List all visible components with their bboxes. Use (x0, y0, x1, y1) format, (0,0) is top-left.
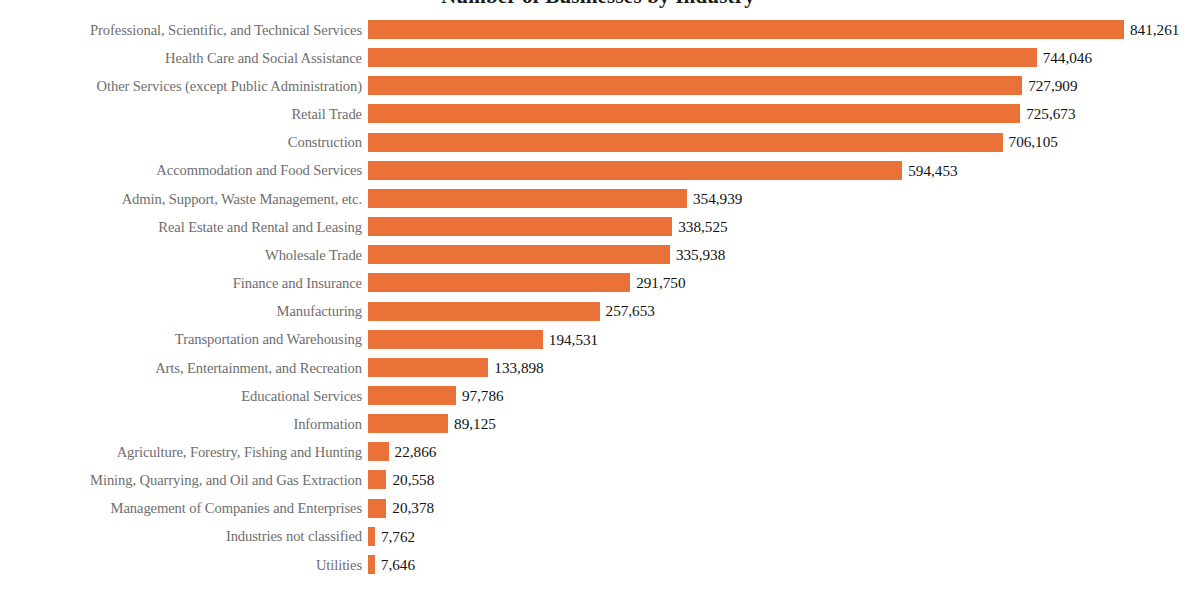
bar-value-label: 727,909 (1028, 78, 1077, 93)
bar-and-value: 20,558 (368, 470, 434, 489)
bar[interactable] (368, 442, 389, 461)
bar[interactable] (368, 330, 543, 349)
bar-row: Transportation and Warehousing194,531 (0, 326, 1196, 354)
bar-and-value: 22,866 (368, 442, 436, 461)
bar-row: Wholesale Trade335,938 (0, 241, 1196, 269)
bar[interactable] (368, 358, 488, 377)
bar-and-value: 594,453 (368, 161, 958, 180)
category-label: Agriculture, Forestry, Fishing and Hunti… (0, 445, 362, 460)
bar-value-label: 133,898 (494, 360, 543, 375)
category-label: Retail Trade (0, 107, 362, 122)
bar-and-value: 744,046 (368, 48, 1092, 67)
bar-value-label: 841,261 (1130, 22, 1179, 37)
bar-value-label: 89,125 (454, 416, 496, 431)
bar-value-label: 257,653 (606, 303, 655, 318)
bar-and-value: 291,750 (368, 273, 686, 292)
bar-row: Arts, Entertainment, and Recreation133,8… (0, 354, 1196, 382)
bar-and-value: 841,261 (368, 20, 1179, 39)
category-label: Wholesale Trade (0, 248, 362, 263)
bar-chart: Number of Businesses by Industry Profess… (0, 0, 1196, 608)
bar-row: Accommodation and Food Services594,453 (0, 157, 1196, 185)
bar[interactable] (368, 76, 1022, 95)
bar-value-label: 354,939 (693, 191, 742, 206)
bar-and-value: 20,378 (368, 499, 434, 518)
bar-row: Agriculture, Forestry, Fishing and Hunti… (0, 438, 1196, 466)
category-label: Construction (0, 135, 362, 150)
bar-value-label: 97,786 (462, 388, 504, 403)
bar-and-value: 7,762 (368, 527, 415, 546)
category-label: Health Care and Social Assistance (0, 51, 362, 66)
bar-row: Other Services (except Public Administra… (0, 72, 1196, 100)
bar-value-label: 744,046 (1043, 50, 1092, 65)
bar-and-value: 97,786 (368, 386, 504, 405)
bar-value-label: 22,866 (395, 444, 437, 459)
bar-and-value: 335,938 (368, 245, 725, 264)
bar[interactable] (368, 386, 456, 405)
bar[interactable] (368, 48, 1037, 67)
category-label: Industries not classified (0, 529, 362, 544)
bar-row: Construction706,105 (0, 129, 1196, 157)
bar[interactable] (368, 104, 1020, 123)
bar-row: Retail Trade725,673 (0, 100, 1196, 128)
bar-and-value: 354,939 (368, 189, 742, 208)
bar-and-value: 338,525 (368, 217, 728, 236)
bar-value-label: 706,105 (1009, 134, 1058, 149)
category-label: Manufacturing (0, 304, 362, 319)
bar-row: Health Care and Social Assistance744,046 (0, 44, 1196, 72)
bar-and-value: 133,898 (368, 358, 544, 377)
bar-row: Mining, Quarrying, and Oil and Gas Extra… (0, 466, 1196, 494)
category-label: Accommodation and Food Services (0, 163, 362, 178)
bar[interactable] (368, 217, 672, 236)
bar[interactable] (368, 20, 1124, 39)
bar-and-value: 706,105 (368, 133, 1058, 152)
bar-value-label: 7,646 (381, 557, 415, 572)
bar[interactable] (368, 555, 375, 574)
bar[interactable] (368, 302, 600, 321)
bar-row: Finance and Insurance291,750 (0, 269, 1196, 297)
bar[interactable] (368, 414, 448, 433)
bar[interactable] (368, 499, 386, 518)
bar[interactable] (368, 245, 670, 264)
bar-and-value: 257,653 (368, 302, 655, 321)
category-label: Finance and Insurance (0, 276, 362, 291)
bar[interactable] (368, 273, 630, 292)
bar-row: Professional, Scientific, and Technical … (0, 16, 1196, 44)
bar-row: Real Estate and Rental and Leasing338,52… (0, 213, 1196, 241)
category-label: Transportation and Warehousing (0, 332, 362, 347)
bar-and-value: 89,125 (368, 414, 496, 433)
bar-value-label: 594,453 (908, 163, 957, 178)
category-label: Management of Companies and Enterprises (0, 501, 362, 516)
category-label: Mining, Quarrying, and Oil and Gas Extra… (0, 473, 362, 488)
bar[interactable] (368, 133, 1003, 152)
bar-value-label: 20,378 (392, 500, 434, 515)
bar[interactable] (368, 470, 386, 489)
bar-and-value: 194,531 (368, 330, 598, 349)
category-label: Educational Services (0, 389, 362, 404)
bar-value-label: 335,938 (676, 247, 725, 262)
bar-value-label: 338,525 (678, 219, 727, 234)
bar[interactable] (368, 527, 375, 546)
bar[interactable] (368, 161, 902, 180)
bar-row: Admin, Support, Waste Management, etc.35… (0, 185, 1196, 213)
bar-value-label: 291,750 (636, 275, 685, 290)
bar-value-label: 7,762 (381, 529, 415, 544)
category-label: Professional, Scientific, and Technical … (0, 23, 362, 38)
category-label: Arts, Entertainment, and Recreation (0, 361, 362, 376)
category-label: Admin, Support, Waste Management, etc. (0, 192, 362, 207)
bar-and-value: 725,673 (368, 104, 1075, 123)
bar-row: Industries not classified7,762 (0, 523, 1196, 551)
category-label: Real Estate and Rental and Leasing (0, 220, 362, 235)
bar-row: Manufacturing257,653 (0, 298, 1196, 326)
plot-area: Professional, Scientific, and Technical … (0, 0, 1196, 608)
bar[interactable] (368, 189, 687, 208)
category-label: Information (0, 417, 362, 432)
bar-row: Educational Services97,786 (0, 382, 1196, 410)
bar-row: Information89,125 (0, 410, 1196, 438)
category-label: Other Services (except Public Administra… (0, 79, 362, 94)
bar-row: Utilities7,646 (0, 551, 1196, 579)
bar-and-value: 7,646 (368, 555, 415, 574)
bar-value-label: 20,558 (392, 472, 434, 487)
category-label: Utilities (0, 558, 362, 573)
bar-and-value: 727,909 (368, 76, 1077, 95)
bar-value-label: 725,673 (1026, 106, 1075, 121)
